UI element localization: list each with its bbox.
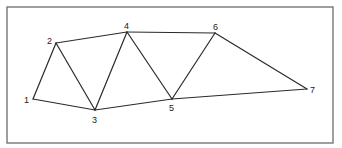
node-label-1: 1 [24, 95, 29, 105]
node-labels-group: 1234567 [24, 21, 315, 125]
edge-5-6 [172, 33, 215, 99]
graph-diagram: 1234567 [0, 0, 342, 148]
node-label-6: 6 [213, 22, 218, 32]
edges-group [33, 32, 307, 110]
node-label-3: 3 [92, 115, 97, 125]
edge-2-3 [56, 43, 95, 110]
node-label-2: 2 [47, 36, 52, 46]
edge-6-7 [215, 33, 307, 89]
node-label-7: 7 [310, 85, 315, 95]
edge-3-5 [95, 99, 172, 110]
node-label-4: 4 [124, 21, 129, 31]
edge-2-4 [56, 32, 127, 43]
edge-3-4 [95, 32, 127, 110]
edge-1-2 [33, 43, 56, 99]
edge-5-7 [172, 89, 307, 99]
node-label-5: 5 [169, 103, 174, 113]
edge-4-6 [127, 32, 215, 33]
edge-1-3 [33, 99, 95, 110]
edge-4-5 [127, 32, 172, 99]
